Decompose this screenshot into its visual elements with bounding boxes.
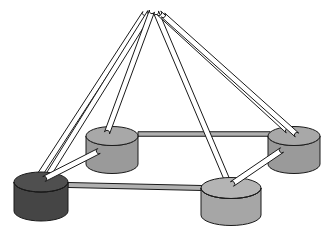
rod-group [37,10,299,183]
disc-group-front [14,172,261,226]
cylinder-top [86,127,138,146]
cylinder-node-front-right[interactable] [201,178,261,226]
cylinder-node-front-left[interactable] [14,172,68,221]
tie-group-front [68,183,202,191]
tensegrity-diagram [0,0,333,227]
diagram-canvas [0,0,333,227]
rod-apex-to-front-right [154,11,231,183]
tie-front-left-to-front-right [68,183,202,191]
cylinder-node-back-left[interactable] [86,127,138,174]
